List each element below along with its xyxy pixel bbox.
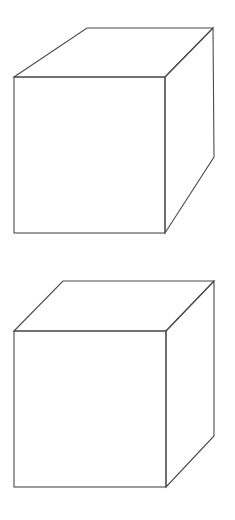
cube-side-face	[165, 28, 214, 233]
cube-top	[14, 28, 214, 233]
cube-front-face	[14, 331, 166, 487]
cube-top-face	[14, 281, 214, 331]
cube-front-face	[14, 77, 165, 233]
cube-top-face	[14, 28, 213, 77]
cube-side-face	[166, 281, 214, 487]
cubes-diagram	[0, 0, 235, 520]
cube-bottom	[14, 281, 214, 487]
